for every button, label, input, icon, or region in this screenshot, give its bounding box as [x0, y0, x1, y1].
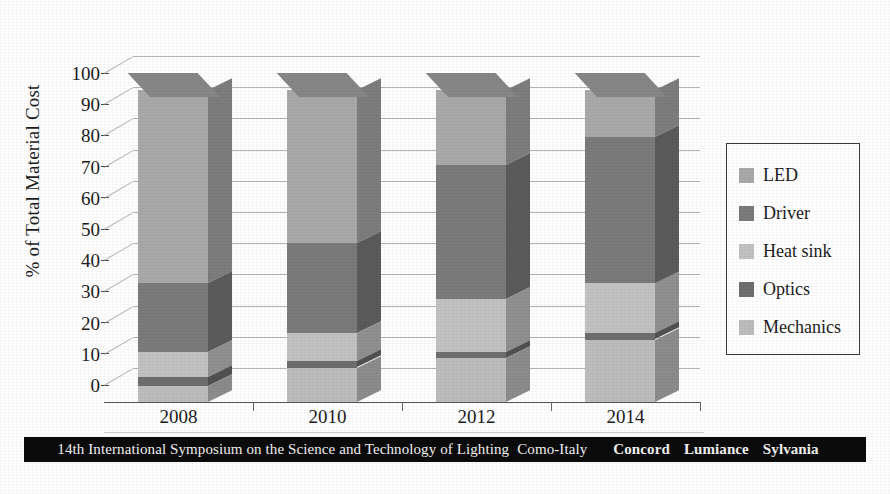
bar-segment-2008-led[interactable] [138, 90, 208, 283]
bar-2014[interactable] [585, 90, 655, 402]
bar-segment-2010-led[interactable] [287, 90, 357, 243]
footer-brand-concord: Concord [613, 441, 670, 457]
y-tick-label: 70 [81, 156, 100, 177]
legend-swatch-mechanics [739, 320, 754, 335]
legend-item-mechanics[interactable]: Mechanics [739, 308, 859, 346]
bar-segment-2008-heat-sink[interactable] [138, 352, 208, 377]
x-tick-2010: 2010 [309, 406, 347, 428]
y-tick-80: 80 [28, 126, 100, 145]
gridline-connector-100 [104, 56, 133, 74]
bar-2012[interactable] [436, 90, 506, 402]
bar-segment-2010-heat-sink[interactable] [287, 333, 357, 361]
y-tick-label: 40 [81, 250, 100, 271]
bar-segment-2012-led[interactable] [436, 90, 506, 165]
legend-swatch-heat-sink [739, 244, 754, 259]
segment-front-face [585, 90, 655, 137]
y-axis-tick-labels: 1009080706050403020100 [28, 0, 100, 440]
y-tick-0: 0 [28, 376, 100, 395]
y-tick-100: 100 [28, 64, 100, 83]
x-axis-tick-labels: 2008201020122014 [104, 406, 700, 434]
segment-side-face [655, 125, 679, 283]
segment-side-face [506, 153, 530, 299]
bar-2010[interactable] [287, 90, 357, 402]
y-tick-40: 40 [28, 251, 100, 270]
bar-segment-2008-driver[interactable] [138, 283, 208, 352]
plot-area: % of Total Material Cost 100908070605040… [0, 0, 720, 440]
bar-segment-2014-mechanics[interactable] [585, 340, 655, 402]
segment-front-face [138, 386, 208, 402]
bar-2008[interactable] [138, 90, 208, 402]
segment-front-face [585, 340, 655, 402]
legend-label: Heat sink [763, 242, 831, 260]
y-tick-30: 30 [28, 282, 100, 301]
y-tick-label: 20 [81, 312, 100, 333]
segment-front-face [436, 165, 506, 299]
bar-segment-2012-heat-sink[interactable] [436, 299, 506, 352]
legend-label: Optics [763, 280, 810, 298]
y-tick-label: 60 [81, 187, 100, 208]
bar-segment-2014-driver[interactable] [585, 137, 655, 284]
segment-front-face [138, 352, 208, 377]
legend-label: LED [763, 166, 798, 184]
x-tick-2014: 2014 [607, 406, 645, 428]
legend-label: Mechanics [763, 318, 841, 336]
legend-item-driver[interactable]: Driver [739, 194, 859, 232]
segment-front-face [138, 90, 208, 283]
gridline-100 [133, 56, 700, 57]
chart-axes [104, 73, 700, 402]
footer-conference-name: 14th International Symposium on the Scie… [57, 441, 509, 458]
stacked-bar-chart-figure: % of Total Material Cost 100908070605040… [0, 0, 890, 494]
footer-caption-bar: 14th International Symposium on the Scie… [24, 437, 866, 462]
x-separator-4 [700, 402, 701, 411]
legend-swatch-optics [739, 282, 754, 297]
segment-front-face [287, 90, 357, 243]
bar-segment-2008-mechanics[interactable] [138, 386, 208, 402]
bar-segment-2012-mechanics[interactable] [436, 358, 506, 402]
segment-front-face [585, 283, 655, 333]
y-tick-label: 90 [81, 94, 100, 115]
y-tick-label: 30 [81, 281, 100, 302]
y-tick-20: 20 [28, 313, 100, 332]
segment-side-face [208, 272, 232, 352]
y-tick-90: 90 [28, 95, 100, 114]
segment-front-face [436, 358, 506, 402]
y-tick-label: 100 [72, 63, 101, 84]
bar-segment-2010-mechanics[interactable] [287, 368, 357, 402]
floor-line [104, 432, 704, 433]
footer-brand-sylvania: Sylvania [763, 441, 819, 457]
y-tick-label: 50 [81, 219, 100, 240]
segment-front-face [138, 377, 208, 386]
bar-segment-2014-heat-sink[interactable] [585, 283, 655, 333]
bar-segment-2010-driver[interactable] [287, 243, 357, 333]
y-tick-70: 70 [28, 157, 100, 176]
segment-front-face [138, 283, 208, 352]
bar-segment-2012-driver[interactable] [436, 165, 506, 299]
legend-item-heat-sink[interactable]: Heat sink [739, 232, 859, 270]
legend-label: Driver [763, 204, 810, 222]
bar-segment-2008-optics[interactable] [138, 377, 208, 386]
segment-side-face [655, 328, 679, 402]
bar-segment-2014-led[interactable] [585, 90, 655, 137]
segment-front-face [585, 137, 655, 284]
legend-swatch-driver [739, 206, 754, 221]
segment-side-face [357, 78, 381, 243]
footer-brand-lumiance: Lumiance [684, 441, 749, 457]
y-tick-label: 0 [91, 375, 101, 396]
y-tick-50: 50 [28, 220, 100, 239]
legend-item-optics[interactable]: Optics [739, 270, 859, 308]
bar-group [104, 73, 700, 402]
x-tick-2008: 2008 [160, 406, 198, 428]
legend-item-led[interactable]: LED [739, 156, 859, 194]
footer-location: Como-Italy [517, 441, 587, 458]
y-tick-60: 60 [28, 188, 100, 207]
x-tick-2012: 2012 [458, 406, 496, 428]
segment-side-face [208, 78, 232, 283]
segment-front-face [287, 368, 357, 402]
chart-legend: LEDDriverHeat sinkOpticsMechanics [726, 143, 860, 355]
segment-front-face [287, 243, 357, 333]
y-tick-label: 10 [81, 343, 100, 364]
footer-brands: ConcordLumianceSylvania [613, 441, 832, 458]
y-tick-10: 10 [28, 344, 100, 363]
y-tick-label: 80 [81, 125, 100, 146]
segment-front-face [287, 333, 357, 361]
